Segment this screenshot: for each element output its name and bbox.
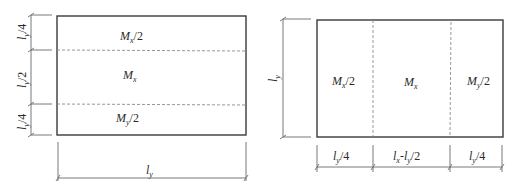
right-dim-height-label: ly (266, 75, 282, 82)
left-slab-outline (57, 16, 246, 135)
right-vertical-dimension (280, 17, 311, 139)
left-dim-bottom-label: ly/4 (15, 114, 31, 130)
left-region-top-label: Mx/2 (119, 29, 143, 45)
right-dim-right-label: ly/4 (469, 149, 485, 165)
right-dim-middle-label: lx-ly/2 (393, 149, 420, 165)
left-divider-top (57, 50, 246, 51)
left-region-bottom-label: My/2 (115, 111, 139, 127)
right-dim-left-label: ly/4 (333, 149, 349, 165)
left-dim-top-label: ly/4 (15, 24, 31, 40)
right-region-middle-label: Mx (403, 75, 418, 91)
left-divider-bottom (57, 104, 246, 105)
right-region-right-label: My/2 (466, 74, 490, 90)
left-region-middle-label: Mx (122, 68, 137, 84)
right-region-left-label: Mx/2 (331, 74, 355, 90)
left-vertical-dimension (28, 13, 52, 137)
left-dim-middle-label: ly/2 (15, 72, 31, 88)
left-diagram: Mx/2 Mx My/2 ly/4 ly/2 ly/4 ly (15, 13, 248, 181)
right-diagram: Mx/2 mimoMx My/2 ly ly/4 lx-ly/2 ly/4 (266, 17, 504, 172)
right-divider-right (450, 22, 451, 137)
moment-distribution-diagram: Mx/2 Mx My/2 ly/4 ly/2 ly/4 ly (0, 0, 517, 190)
left-dim-width-label: ly (146, 163, 153, 179)
